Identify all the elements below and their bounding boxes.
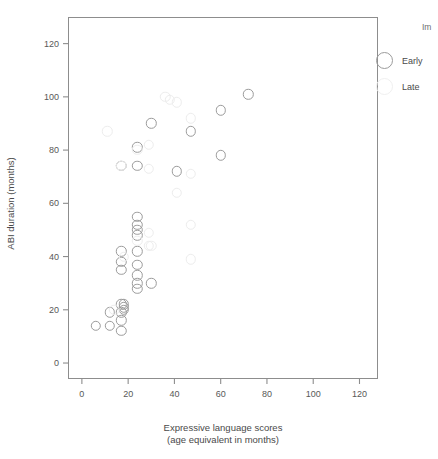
y-tick-label: 40: [29, 252, 59, 262]
legend-marker-late-icon: [376, 78, 393, 95]
x-axis-title-line1: Expressive language scores: [164, 422, 283, 434]
y-tick-label: 120: [29, 39, 59, 49]
legend-marker-early-icon: [376, 52, 393, 69]
y-tick-label: 60: [29, 198, 59, 208]
scatter-plot-figure: 020406080100120 020406080100120 ABI dura…: [0, 0, 438, 459]
x-tick-label: 120: [352, 389, 367, 399]
y-tick-label: 0: [29, 358, 59, 368]
legend-label-late: Late: [402, 82, 420, 92]
legend-item-late[interactable]: Late: [376, 78, 420, 95]
plot-area-frame: [68, 17, 378, 379]
legend-label-early: Early: [402, 56, 423, 66]
x-axis-title-line2: (age equivalent in months): [164, 434, 283, 446]
x-tick-label: 20: [123, 389, 133, 399]
y-tick-label: 80: [29, 145, 59, 155]
x-tick-label: 80: [262, 389, 272, 399]
y-axis-title: ABI duration (months): [5, 157, 16, 249]
legend-item-early[interactable]: Early: [376, 52, 423, 69]
y-tick-label: 20: [29, 305, 59, 315]
x-tick-label: 40: [169, 389, 179, 399]
x-axis-title: Expressive language scores (age equivale…: [164, 422, 283, 446]
y-tick-label: 100: [29, 92, 59, 102]
x-tick-label: 60: [216, 389, 226, 399]
x-tick-label: 100: [306, 389, 321, 399]
x-tick-label: 0: [79, 389, 84, 399]
legend-title: Im: [422, 22, 438, 32]
